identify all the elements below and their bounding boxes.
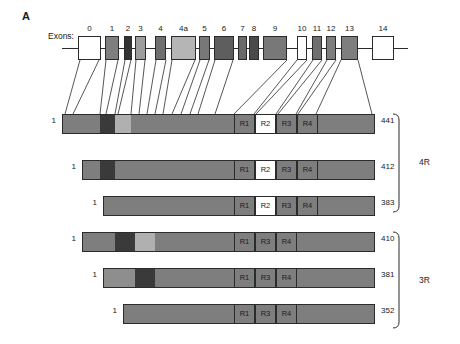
exon-box-4 — [155, 36, 166, 60]
repeat-domain-R3: R3 — [276, 161, 297, 179]
repeat-domain-R2: R2 — [255, 197, 276, 215]
exon-number-13: 13 — [333, 24, 366, 33]
repeat-domain-R3: R3 — [255, 233, 276, 251]
exon-box-6 — [214, 36, 234, 60]
exon-connector-line — [65, 60, 80, 114]
isoform-segment — [135, 269, 155, 287]
repeat-domain-R4: R4 — [297, 197, 318, 215]
isoform-start-label-352: 1 — [99, 306, 117, 315]
exon-connector-line — [115, 60, 125, 114]
repeat-domain-R1: R1 — [234, 161, 255, 179]
exon-connector-line — [298, 60, 336, 114]
repeat-domain-R1: R1 — [234, 197, 255, 215]
exon-box-14 — [372, 36, 394, 60]
repeat-domain-R1: R1 — [234, 269, 255, 287]
isoform-segment — [104, 269, 135, 287]
isoform-end-label-441: 441 — [381, 116, 407, 125]
isoform-bar-441: R1R2R3R4 — [62, 114, 375, 134]
exon-connector-line — [118, 60, 131, 114]
isoform-segment — [83, 161, 100, 179]
exon-box-1 — [105, 36, 119, 60]
repeat-domain-R3: R3 — [276, 197, 297, 215]
exon-connector-line — [147, 60, 156, 114]
exon-connector-line — [296, 60, 327, 114]
exon-number-14: 14 — [364, 24, 402, 33]
figure-panel-a: A Exons: 012344a567891011121314 R1R2R3R4… — [0, 0, 460, 344]
exon-connector-line — [100, 60, 106, 114]
exon-connector-line — [163, 60, 172, 114]
exon-box-13 — [341, 36, 358, 60]
isoform-segment — [83, 233, 115, 251]
isoform-bar-352: R1R3R4 — [123, 304, 375, 324]
repeat-domain-R4: R4 — [297, 161, 318, 179]
isoform-start-label-412: 1 — [58, 162, 76, 171]
isoform-segment — [63, 115, 100, 133]
exon-box-8 — [249, 36, 259, 60]
exon-box-5 — [199, 36, 210, 60]
exon-connector-line — [198, 60, 215, 114]
repeat-domain-R2: R2 — [255, 115, 276, 133]
isoform-bar-381: R1R3R4 — [103, 268, 375, 288]
repeat-domain-R4: R4 — [276, 305, 297, 323]
exon-connector-line — [234, 60, 287, 114]
exon-connector-line — [215, 60, 233, 114]
bracket-label-4R: 4R — [419, 157, 430, 167]
exon-box-11 — [312, 36, 322, 60]
repeat-domain-R2: R2 — [255, 161, 276, 179]
exon-box-0 — [78, 36, 101, 60]
exon-box-3 — [135, 36, 146, 60]
isoform-segment — [115, 233, 135, 251]
exon-connector-line — [73, 60, 99, 114]
bracket-label-3R: 3R — [419, 275, 430, 285]
repeat-domain-R3: R3 — [255, 269, 276, 287]
exon-box-7 — [238, 36, 247, 60]
exon-box-2 — [124, 36, 132, 60]
isoform-segment — [100, 115, 115, 133]
exon-connector-line — [181, 60, 200, 114]
repeat-domain-R4: R4 — [276, 269, 297, 287]
isoform-end-label-352: 352 — [381, 306, 407, 315]
isoform-bar-412: R1R2R3R4 — [82, 160, 375, 180]
exon-box-10 — [297, 36, 307, 60]
isoform-end-label-381: 381 — [381, 270, 407, 279]
exon-connector-line — [358, 60, 372, 114]
isoform-bar-383: R1R2R3R4 — [103, 196, 375, 216]
repeat-domain-R1: R1 — [234, 115, 255, 133]
exon-connector-line — [276, 60, 313, 114]
repeat-domain-R1: R1 — [234, 233, 255, 251]
exon-connector-line — [139, 60, 145, 114]
isoform-segment — [135, 233, 155, 251]
exon-connector-line — [172, 60, 195, 114]
exon-connector-line — [278, 60, 322, 114]
exon-connector-line — [190, 60, 209, 114]
exon-connector-line — [131, 60, 136, 114]
isoform-start-label-381: 1 — [79, 270, 97, 279]
isoform-end-label-410: 410 — [381, 234, 407, 243]
isoform-end-label-383: 383 — [381, 198, 407, 207]
isoform-start-label-410: 1 — [58, 234, 76, 243]
exon-connector-line — [316, 60, 341, 114]
repeat-domain-R3: R3 — [276, 115, 297, 133]
isoform-segment — [115, 115, 131, 133]
isoform-start-label-383: 1 — [79, 198, 97, 207]
exon-connector-line — [256, 60, 307, 114]
exon-connector-line — [155, 60, 166, 114]
exon-box-12 — [326, 36, 336, 60]
isoform-bar-410: R1R3R4 — [82, 232, 375, 252]
repeat-domain-R1: R1 — [234, 305, 255, 323]
panel-letter: A — [22, 10, 30, 22]
isoform-end-label-412: 412 — [381, 162, 407, 171]
repeat-domain-R4: R4 — [297, 115, 318, 133]
exon-box-4a — [171, 36, 196, 60]
isoform-segment — [100, 161, 115, 179]
exon-connector-line — [254, 60, 297, 114]
exon-connector-line — [106, 60, 118, 114]
exon-box-9 — [263, 36, 287, 60]
repeat-domain-R3: R3 — [255, 305, 276, 323]
repeat-domain-R4: R4 — [276, 233, 297, 251]
isoform-start-label-441: 1 — [38, 116, 56, 125]
